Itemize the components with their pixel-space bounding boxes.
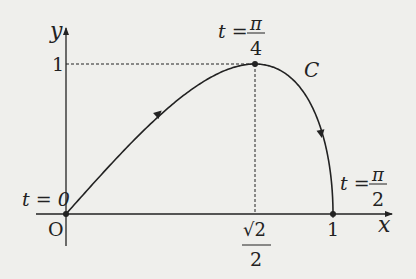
- x-tick-label-sqrt2-num: √2: [243, 219, 266, 240]
- direction-arrow-icon: [317, 129, 326, 138]
- label-t-pi-over-4-den: 4: [250, 37, 262, 59]
- label-t-pi-over-4-prefix: t =: [218, 20, 248, 42]
- point-t-pi-over-4: [252, 61, 258, 67]
- diagram-canvas: y x O 1 1 √2 2 C t = 0 t = π 4 t = π 2: [0, 0, 416, 279]
- label-t-pi-over-2-den: 2: [372, 188, 384, 210]
- curve-label-c: C: [304, 58, 319, 82]
- y-tick-label-1: 1: [52, 53, 64, 75]
- label-t-pi-over-2-prefix: t =: [340, 172, 370, 194]
- point-origin: [63, 211, 69, 217]
- label-t-pi-over-4-num: π: [249, 13, 263, 34]
- y-axis-label: y: [49, 18, 63, 43]
- label-t-pi-over-2-num: π: [371, 164, 385, 185]
- label-t-0: t = 0: [22, 188, 70, 210]
- x-tick-label-1: 1: [327, 218, 339, 240]
- parametric-curve-diagram: y x O 1 1 √2 2 C t = 0 t = π 4 t = π 2: [0, 0, 416, 279]
- x-tick-label-sqrt2-den: 2: [250, 248, 262, 270]
- x-axis-label: x: [378, 212, 391, 237]
- origin-label: O: [48, 218, 64, 240]
- curve-c: [66, 64, 333, 214]
